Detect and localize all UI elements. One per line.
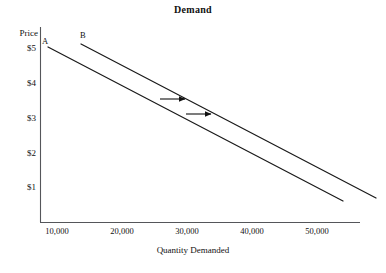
demand-chart: Demand Price $5 $4 $3 $2 $1 10,000 20,00… [0,0,386,273]
demand-curve-b [81,44,376,198]
demand-curve-a [48,47,343,201]
plot-area [0,0,386,273]
